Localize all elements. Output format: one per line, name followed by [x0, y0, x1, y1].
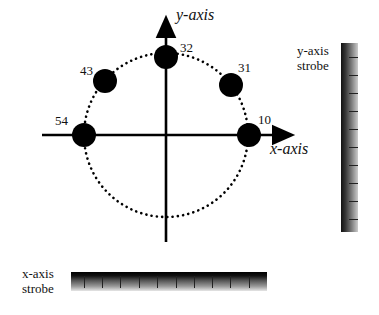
strobe-tick: [349, 147, 358, 148]
strobe-tick: [194, 276, 195, 288]
point-43: [93, 69, 117, 93]
y-axis-strobe-bar: [341, 43, 358, 232]
strobe-tick: [349, 201, 358, 202]
y-strobe-label: y-axis strobe: [297, 43, 329, 73]
strobe-tick: [349, 219, 358, 220]
strobe-tick: [157, 276, 158, 288]
x-strobe-label-line2: strobe: [22, 281, 54, 296]
strobe-tick: [349, 183, 358, 184]
point-54: [72, 123, 96, 147]
strobe-tick: [102, 276, 103, 288]
strobe-tick: [212, 276, 213, 288]
strobe-tick: [84, 276, 85, 288]
strobe-tick: [349, 111, 358, 112]
strobe-tick: [249, 276, 250, 288]
strobe-tick: [349, 93, 358, 94]
point-label-31: 31: [238, 60, 251, 76]
strobe-tick: [230, 276, 231, 288]
x-axis-label: x-axis: [270, 140, 308, 158]
y-strobe-label-line1: y-axis: [297, 43, 329, 58]
strobe-tick: [349, 75, 358, 76]
strobe-tick: [349, 57, 358, 58]
point-label-54: 54: [55, 113, 68, 129]
point-label-43: 43: [80, 63, 93, 79]
strobe-tick: [349, 165, 358, 166]
y-axis-label: y-axis: [176, 6, 214, 24]
point-31: [219, 73, 243, 97]
x-strobe-label: x-axis strobe: [22, 266, 54, 296]
y-strobe-label-line2: strobe: [297, 58, 329, 73]
point-label-10: 10: [258, 112, 271, 128]
strobe-tick: [139, 276, 140, 288]
point-label-32: 32: [180, 40, 193, 56]
x-axis-strobe-bar: [71, 272, 267, 291]
x-strobe-label-line1: x-axis: [22, 266, 54, 281]
strobe-tick: [176, 276, 177, 288]
strobe-tick: [349, 129, 358, 130]
point-32: [154, 45, 178, 69]
strobe-tick: [120, 276, 121, 288]
